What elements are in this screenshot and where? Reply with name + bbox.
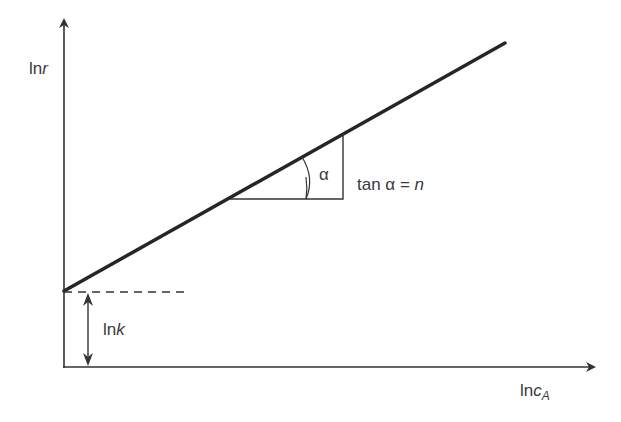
y-label-prefix: ln (29, 59, 42, 78)
angle-label: α (319, 165, 329, 185)
x-label-subscript: A (542, 389, 550, 403)
slope-label-var: n (415, 175, 424, 194)
intercept-label-prefix: ln (103, 320, 116, 339)
slope-label: tan α = n (357, 175, 424, 195)
intercept-label: lnk (103, 320, 125, 340)
x-label-var: c (533, 381, 542, 400)
diagram-canvas (0, 0, 621, 422)
x-axis-label: lncA (520, 381, 550, 403)
intercept-label-var: k (116, 320, 125, 339)
slope-label-text: tan α = (357, 175, 415, 194)
x-label-prefix: ln (520, 381, 533, 400)
y-label-var: r (42, 59, 48, 78)
regression-line (64, 43, 505, 291)
y-axis-label: lnr (29, 59, 48, 79)
